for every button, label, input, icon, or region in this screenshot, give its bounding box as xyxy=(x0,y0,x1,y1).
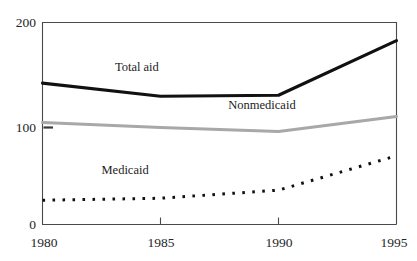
series-label-total-aid: Total aid xyxy=(115,60,160,74)
series-lines xyxy=(43,41,397,201)
series-line-nonmedicaid xyxy=(43,116,397,131)
series-labels: Total aid Nonmedicaid Medicaid xyxy=(101,60,296,177)
series-label-nonmedicaid: Nonmedicaid xyxy=(228,98,296,112)
series-line-medicaid xyxy=(43,156,397,200)
ytick-label-100: 100 xyxy=(16,120,37,135)
line-chart-svg: 200 100 0 1980 1985 1990 1995 Total aid … xyxy=(0,0,417,261)
series-line-total-aid xyxy=(43,41,397,97)
ytick-label-200: 200 xyxy=(16,15,37,30)
x-tick-marks xyxy=(161,218,279,225)
xtick-label-1985: 1985 xyxy=(148,235,175,250)
xtick-label-1980: 1980 xyxy=(31,235,58,250)
ytick-label-0: 0 xyxy=(29,217,36,232)
xtick-label-1990: 1990 xyxy=(266,235,293,250)
series-label-medicaid: Medicaid xyxy=(101,163,149,177)
xtick-label-1995: 1995 xyxy=(381,235,408,250)
chart-figure: 200 100 0 1980 1985 1990 1995 Total aid … xyxy=(0,0,417,261)
